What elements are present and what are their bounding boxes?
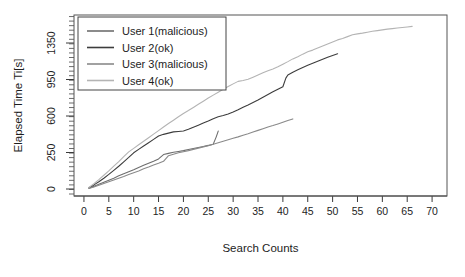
x-tick-label: 70 — [426, 205, 438, 217]
line-chart: 02506009501350 0510152025303540455055606… — [0, 0, 465, 277]
x-tick-label: 65 — [401, 205, 413, 217]
x-tick-label: 10 — [128, 205, 140, 217]
y-axis-title: Elapsed Time Ti[s] — [12, 59, 24, 153]
legend-label: User 2(ok) — [122, 42, 173, 54]
x-tick-label: 50 — [327, 205, 339, 217]
x-tick-label: 15 — [153, 205, 165, 217]
x-tick-label: 25 — [202, 205, 214, 217]
y-tick-label: 600 — [45, 107, 57, 125]
x-tick-label: 40 — [277, 205, 289, 217]
x-tick-label: 20 — [178, 205, 190, 217]
x-tick-label: 0 — [81, 205, 87, 217]
y-tick-label: 250 — [45, 144, 57, 162]
x-axis-tick-labels: 0510152025303540455055606570 — [81, 205, 438, 217]
x-tick-label: 60 — [377, 205, 389, 217]
x-tick-label: 45 — [302, 205, 314, 217]
x-tick-label: 30 — [227, 205, 239, 217]
y-tick-label: 1350 — [45, 31, 57, 55]
chart-legend: User 1(malicious)User 2(ok)User 3(malici… — [78, 17, 226, 90]
chart-figure: 02506009501350 0510152025303540455055606… — [0, 0, 465, 277]
x-tick-label: 55 — [352, 205, 364, 217]
legend-label: User 1(malicious) — [122, 25, 208, 37]
x-tick-label: 5 — [106, 205, 112, 217]
y-tick-label: 0 — [45, 186, 57, 192]
x-axis-title: Search Counts — [222, 242, 298, 254]
x-tick-label: 35 — [252, 205, 264, 217]
legend-label: User 3(malicious) — [122, 58, 208, 70]
legend-label: User 4(ok) — [122, 75, 173, 87]
y-tick-label: 950 — [45, 71, 57, 89]
